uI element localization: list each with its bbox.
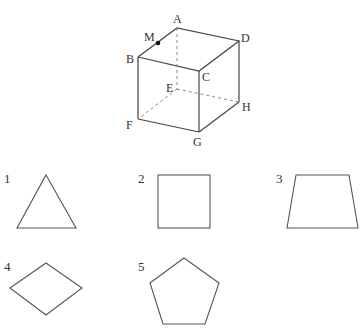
triangle-shape: [17, 175, 76, 228]
rhombus-shape: [10, 263, 82, 315]
cube-hidden-edge-EH: [177, 89, 239, 102]
point-label-m: M: [144, 30, 155, 44]
cube-edge-GH: [199, 102, 239, 132]
option-number-1: 1: [4, 171, 11, 186]
vertex-label-d: D: [241, 31, 250, 45]
trapezoid-shape: [287, 175, 358, 228]
option-5[interactable]: 5: [138, 258, 219, 324]
vertex-label-c: C: [202, 70, 210, 84]
option-1[interactable]: 1: [4, 171, 76, 228]
option-number-3: 3: [276, 171, 283, 186]
option-number-5: 5: [138, 259, 145, 274]
cube-edge-FG: [138, 119, 199, 132]
vertex-label-e: E: [166, 81, 173, 95]
option-number-2: 2: [138, 171, 145, 186]
point-m-dot: [156, 41, 161, 46]
figure: A M D B C E H F G 1 2 3 4 5: [0, 0, 361, 330]
option-3[interactable]: 3: [276, 171, 358, 228]
option-2[interactable]: 2: [138, 171, 210, 228]
option-4[interactable]: 4: [4, 259, 82, 315]
vertex-label-a: A: [173, 12, 182, 26]
vertex-label-f: F: [126, 118, 133, 132]
cube-diagram: A M D B C E H F G: [126, 12, 251, 149]
vertex-label-h: H: [242, 100, 251, 114]
vertex-label-b: B: [126, 52, 134, 66]
option-number-4: 4: [4, 259, 11, 274]
square-shape: [158, 175, 210, 228]
vertex-label-g: G: [193, 135, 202, 149]
pentagon-shape: [150, 258, 219, 324]
